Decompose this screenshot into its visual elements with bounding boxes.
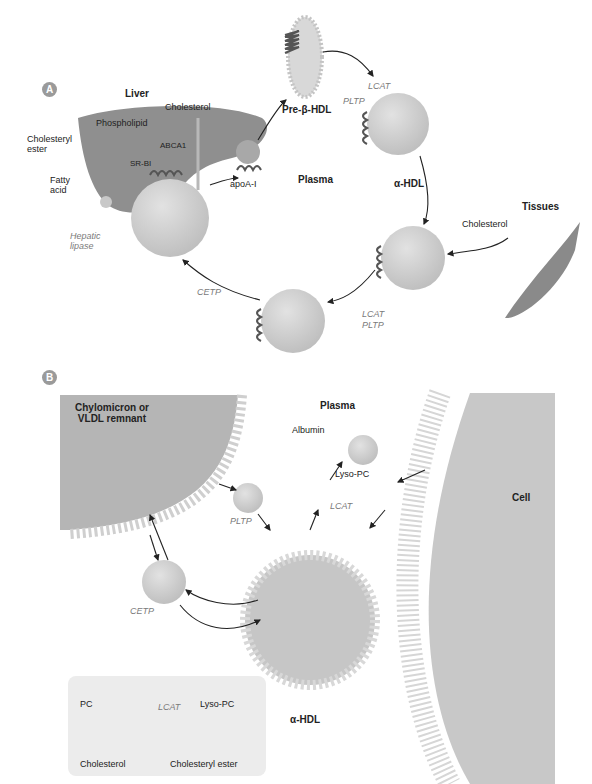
hepatic-lipase-shape [100, 196, 112, 208]
apoa1-label: apoA-I [230, 180, 257, 190]
pre-beta-hdl-label: Pre-β-HDL [282, 104, 331, 115]
pltp-label-a1: PLTP [343, 97, 365, 107]
albumin-shape [348, 435, 378, 465]
abca1-transporter [236, 140, 260, 164]
cetp-particle [142, 560, 186, 604]
sr-bi-label: SR-BI [130, 160, 151, 169]
abca1-label: ABCA1 [160, 142, 186, 151]
lcat-label-b: LCAT [330, 502, 352, 512]
lyso-pc-label-b: Lyso-PC [335, 470, 369, 480]
cholesteryl-ester-label-box: Cholesteryl ester [170, 760, 238, 770]
hdl-particle-bottom [261, 289, 325, 353]
liver-label: Liver [125, 88, 149, 99]
hdl-particle-liver [131, 179, 209, 257]
hepatic-lipase-label: Hepatic lipase [70, 232, 101, 252]
lcat-label-a1: LCAT [368, 82, 390, 92]
cholesterol-label: Cholesterol [165, 103, 211, 113]
panel-a-badge: A [42, 82, 57, 97]
chylomicron-label: Chylomicron or VLDL remnant [75, 402, 149, 424]
alpha-hdl-label-a: α-HDL [394, 178, 424, 189]
pltp-label-a2: PLTP [362, 321, 384, 331]
pltp-label-b: PLTP [230, 517, 252, 527]
muscle-tissue-shape [505, 222, 580, 318]
panel-b-badge: B [42, 370, 57, 385]
tissue-cholesterol-label: Cholesterol [462, 220, 508, 230]
lcat-label-box: LCAT [158, 703, 180, 713]
cholesteryl-ester-label: Cholesteryl ester [27, 135, 72, 155]
lcat-label-a2: LCAT [362, 310, 384, 320]
cell-label: Cell [512, 492, 530, 503]
plasma-label-b: Plasma [320, 400, 355, 411]
alpha-hdl-label-b: α-HDL [290, 714, 320, 725]
alpha-hdl-particle [367, 93, 429, 155]
pc-label: PC [80, 700, 93, 710]
albumin-label: Albumin [292, 426, 325, 436]
lyso-pc-label-box: Lyso-PC [200, 700, 234, 710]
cetp-label-b: CETP [130, 607, 154, 617]
cell-shape [429, 393, 555, 784]
tissues-label: Tissues [522, 201, 559, 212]
cetp-label-a: CETP [197, 288, 221, 298]
phospholipid-label: Phospholipid [96, 119, 148, 129]
fatty-acid-label: Fatty acid [50, 176, 70, 196]
pltp-particle [233, 483, 263, 513]
pre-beta-hdl-shape [285, 17, 322, 97]
plasma-label-a: Plasma [298, 174, 333, 185]
hdl-particle-tissue [381, 226, 445, 290]
diagram-graphics [0, 0, 592, 784]
cholesterol-label-box: Cholesterol [80, 760, 126, 770]
alpha-hdl-b-particle [245, 555, 375, 685]
